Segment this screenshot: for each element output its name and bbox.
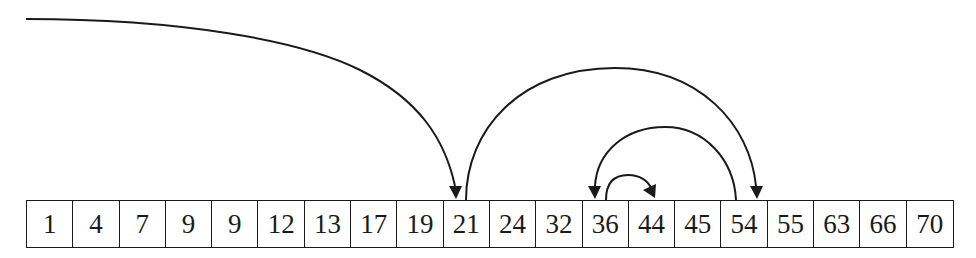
array-cell: 66: [860, 201, 906, 247]
sorted-array: 14799121317192124323644455455636670: [26, 200, 954, 248]
array-cell: 44: [629, 201, 675, 247]
array-cell: 9: [166, 201, 212, 247]
array-cell: 13: [305, 201, 351, 247]
array-cell: 63: [814, 201, 860, 247]
arrowhead-icon: [588, 186, 601, 199]
array-cell: 32: [536, 201, 582, 247]
array-cell: 7: [120, 201, 166, 247]
array-cell: 9: [212, 201, 258, 247]
array-cell: 17: [351, 201, 397, 247]
array-cell: 36: [583, 201, 629, 247]
array-cell: 19: [397, 201, 443, 247]
arrow-entry-to-21: [26, 19, 455, 186]
array-cell: 1: [27, 201, 73, 247]
array-cell: 54: [721, 201, 767, 247]
arrow-21-to-54: [466, 68, 756, 200]
array-cell: 12: [258, 201, 304, 247]
diagram-canvas: 14799121317192124323644455455636670: [0, 0, 976, 258]
array-cell: 55: [768, 201, 814, 247]
array-cell: 21: [444, 201, 490, 247]
arrow-54-to-36: [595, 127, 736, 200]
array-cell: 24: [490, 201, 536, 247]
array-cell: 70: [907, 201, 953, 247]
arrow-36-to-44: [606, 175, 651, 200]
array-cell: 4: [73, 201, 119, 247]
array-cell: 45: [675, 201, 721, 247]
arrowhead-icon: [449, 186, 462, 199]
arrowhead-icon: [750, 186, 763, 199]
